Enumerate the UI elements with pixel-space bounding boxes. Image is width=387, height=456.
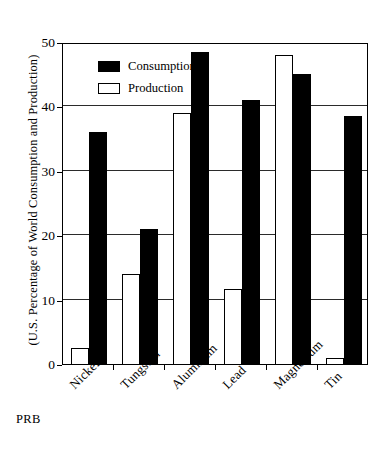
bar-production [326, 358, 344, 364]
x-tick-mark [113, 365, 114, 370]
y-tick-label: 0 [28, 358, 55, 372]
y-tick-label: 50 [28, 36, 55, 50]
bar-production [122, 274, 140, 364]
gridline [63, 299, 367, 300]
x-category-label: Lead [219, 362, 249, 392]
gridline [63, 170, 367, 171]
legend-label-consumption: Consumption [128, 60, 196, 73]
y-tick-mark [57, 365, 62, 366]
bar-consumption [242, 100, 260, 364]
x-category-label: Tin [321, 368, 345, 392]
bar-consumption [89, 132, 107, 364]
bar-consumption [344, 116, 362, 364]
bar-chart-figure: (U.S. Percentage of World Consumption an… [0, 0, 387, 456]
bar-production [173, 113, 191, 364]
y-tick-label: 10 [28, 294, 55, 308]
x-tick-mark [215, 365, 216, 370]
credit-text: PRB [16, 412, 41, 427]
chart-legend: Consumption Production [98, 57, 226, 101]
hollow-white-swatch-icon [98, 83, 120, 94]
bar-consumption [140, 229, 158, 364]
x-tick-mark [164, 365, 165, 370]
gridline [63, 105, 367, 106]
x-tick-mark [317, 365, 318, 370]
legend-item-production: Production [98, 79, 226, 98]
legend-item-consumption: Consumption [98, 57, 226, 76]
y-tick-label: 40 [28, 100, 55, 114]
y-tick-label: 30 [28, 165, 55, 179]
filled-black-swatch-icon [98, 61, 120, 72]
y-axis-title: (U.S. Percentage of World Consumption an… [22, 20, 44, 380]
bar-consumption [293, 74, 311, 364]
y-tick-label: 20 [28, 229, 55, 243]
legend-label-production: Production [128, 82, 183, 95]
x-tick-mark [266, 365, 267, 370]
bar-production [275, 55, 293, 364]
bar-production [224, 289, 242, 364]
gridline [63, 234, 367, 235]
